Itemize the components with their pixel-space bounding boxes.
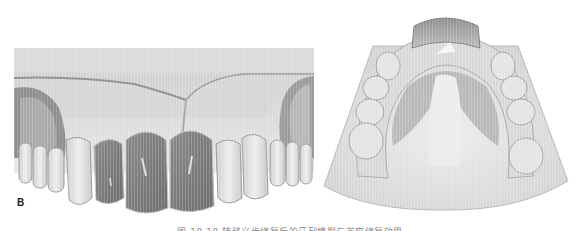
figure-caption: 图 18-18 转移义齿修复后的牙列模型与美容修复效果 <box>140 223 440 231</box>
figure-panel-b <box>14 48 314 216</box>
figure-caption-text: 图 18-18 转移义齿修复后的牙列模型与美容修复效果 <box>177 223 402 231</box>
occlusal-dental-cast-image <box>318 6 572 212</box>
frontal-dental-model-image <box>14 48 314 216</box>
figure-panel-c <box>318 6 572 212</box>
panel-label-b: B <box>17 197 24 208</box>
